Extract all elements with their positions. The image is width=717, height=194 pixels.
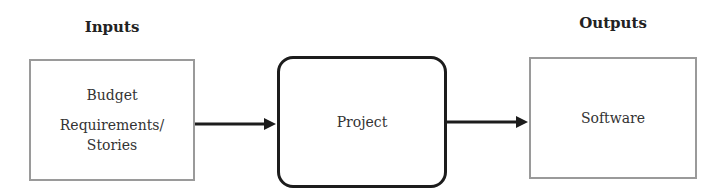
arrow-project-to-outputs [447,116,528,128]
arrow-inputs-to-project [195,118,276,130]
arrows [0,0,717,194]
